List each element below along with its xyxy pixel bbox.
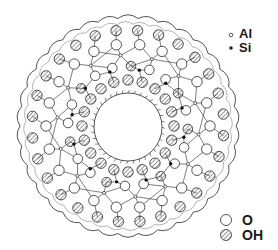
legend-label-o: O <box>242 213 253 227</box>
legend-oh-icon <box>221 230 232 241</box>
legend-label-oh: OH <box>242 228 263 242</box>
nanotube-cross-section-diagram <box>0 0 278 250</box>
legend-al-icon <box>229 33 233 37</box>
legend-o-icon <box>221 215 232 226</box>
legend-si-icon <box>229 46 233 50</box>
legend-label-al: Al <box>239 27 252 40</box>
legend-label-si: Si <box>239 41 251 54</box>
atom-circles <box>27 25 228 226</box>
inner-hole-boundary <box>91 90 165 164</box>
